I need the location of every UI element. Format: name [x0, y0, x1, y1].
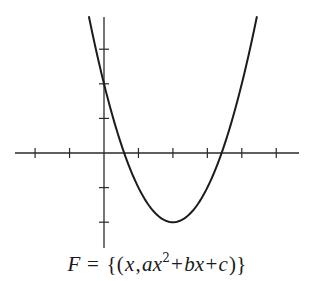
parabola-graph: [0, 0, 315, 281]
caption-plus-1: +: [170, 252, 184, 276]
caption-x-linear: x: [195, 252, 205, 276]
caption-x: x: [125, 252, 135, 276]
caption-plus-2: +: [204, 252, 218, 276]
caption-set-name: F: [68, 252, 81, 276]
caption-x-squared: x: [153, 252, 163, 276]
caption-comma: ,: [135, 252, 142, 276]
parabola-curve: [89, 17, 257, 222]
caption-equals: =: [81, 252, 106, 276]
caption-b: b: [184, 252, 195, 276]
caption-close-brace: )}: [228, 252, 247, 276]
function-caption: F = {(x,ax2+bx+c)}: [0, 252, 315, 277]
caption-open-brace: {(: [106, 252, 125, 276]
caption-exponent: 2: [162, 251, 170, 265]
caption-c: c: [218, 252, 228, 276]
caption-a: a: [142, 252, 153, 276]
coordinate-axes: [15, 17, 299, 248]
